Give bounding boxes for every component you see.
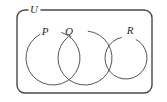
set-label-r: R bbox=[126, 24, 134, 36]
set-label-q: Q bbox=[65, 25, 73, 37]
universal-set-label: U bbox=[30, 3, 39, 15]
set-label-p: P bbox=[41, 25, 49, 37]
venn-diagram-canvas: U P Q R bbox=[0, 0, 167, 102]
venn-diagram-figure: U P Q R bbox=[0, 0, 167, 102]
figure-background bbox=[0, 0, 167, 102]
